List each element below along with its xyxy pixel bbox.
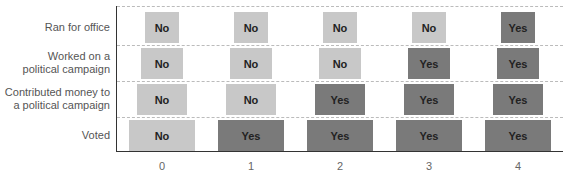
row-label-contributed-money: Contributed money to a political campaig… — [5, 86, 110, 112]
row-label-ran-for-office: Ran for office — [45, 21, 110, 34]
guttman-scale-chart: Ran for office Worked on a political cam… — [0, 0, 569, 175]
gridline — [117, 6, 563, 7]
cell-yes: Yes — [408, 48, 450, 79]
cell-yes: Yes — [497, 48, 539, 79]
cell-no: No — [137, 84, 187, 115]
cell-no: No — [319, 48, 361, 79]
cell-yes: Yes — [218, 120, 284, 151]
cell-yes: Yes — [307, 120, 373, 151]
gridline — [117, 45, 563, 46]
x-tick-0: 0 — [152, 160, 172, 172]
x-tick-3: 3 — [419, 160, 439, 172]
cell-yes: Yes — [485, 120, 551, 151]
gridline — [117, 117, 563, 118]
cell-no: No — [141, 48, 183, 79]
cell-yes: Yes — [396, 120, 462, 151]
cell-no: No — [230, 48, 272, 79]
y-axis — [116, 6, 117, 152]
cell-no: No — [234, 12, 268, 43]
cell-no: No — [129, 120, 195, 151]
cell-yes: Yes — [493, 84, 543, 115]
gridline — [117, 81, 563, 82]
x-axis — [116, 151, 563, 152]
cell-no: No — [323, 12, 357, 43]
row-label-worked-on-campaign: Worked on a political campaign — [23, 50, 110, 76]
cell-no: No — [145, 12, 179, 43]
cell-no: No — [412, 12, 446, 43]
x-tick-2: 2 — [330, 160, 350, 172]
cell-no: No — [226, 84, 276, 115]
x-tick-4: 4 — [508, 160, 528, 172]
row-label-voted: Voted — [82, 129, 110, 142]
x-tick-1: 1 — [241, 160, 261, 172]
cell-yes: Yes — [315, 84, 365, 115]
cell-yes: Yes — [501, 12, 535, 43]
cell-yes: Yes — [404, 84, 454, 115]
